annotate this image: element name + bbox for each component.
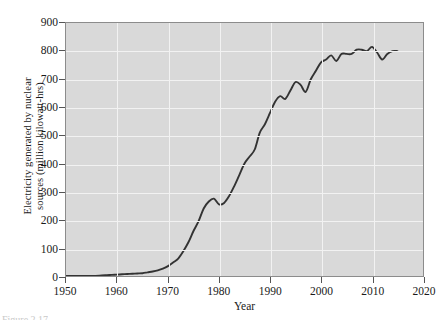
x-axis-tick-mark xyxy=(116,277,117,283)
y-axis-tick-mark xyxy=(59,220,65,221)
y-axis-tick-mark xyxy=(59,79,65,80)
y-axis-tick-mark xyxy=(59,50,65,51)
x-axis-tick-label: 2020 xyxy=(413,285,436,297)
y-axis-tick-mark xyxy=(59,135,65,136)
y-axis-tick-label: 400 xyxy=(26,158,58,170)
x-axis-tick-mark xyxy=(65,277,66,283)
gridline-vertical xyxy=(322,23,323,276)
x-axis-tick-mark xyxy=(424,277,425,283)
x-axis-tick-label: 1970 xyxy=(156,285,179,297)
gridline-horizontal xyxy=(66,108,423,109)
gridline-horizontal xyxy=(66,80,423,81)
figure-container: Electricity generated by nuclear sources… xyxy=(0,0,444,320)
data-series-line xyxy=(66,23,423,276)
y-axis-tick-label: 700 xyxy=(26,73,58,85)
y-axis-tick-label: 900 xyxy=(26,16,58,28)
x-axis-tick-mark xyxy=(373,277,374,283)
x-axis-tick-label: 1960 xyxy=(105,285,128,297)
gridline-vertical xyxy=(374,23,375,276)
x-axis-tick-mark xyxy=(219,277,220,283)
y-axis-tick-mark xyxy=(59,164,65,165)
y-axis-tick-label: 300 xyxy=(26,186,58,198)
y-axis-tick-mark xyxy=(59,192,65,193)
y-axis-tick-label: 200 xyxy=(26,214,58,226)
gridline-vertical xyxy=(169,23,170,276)
x-axis-tick-mark xyxy=(270,277,271,283)
y-axis-tick-mark xyxy=(59,22,65,23)
y-axis-tick-label: 800 xyxy=(26,44,58,56)
gridline-horizontal xyxy=(66,250,423,251)
y-axis-tick-label: 100 xyxy=(26,243,58,255)
gridline-horizontal xyxy=(66,221,423,222)
x-axis-tick-mark xyxy=(168,277,169,283)
y-axis-tick-label: 500 xyxy=(26,129,58,141)
gridline-vertical xyxy=(117,23,118,276)
y-axis-tick-label: 600 xyxy=(26,101,58,113)
gridline-vertical xyxy=(271,23,272,276)
x-axis-title: Year xyxy=(65,300,424,312)
x-axis-tick-label: 2000 xyxy=(310,285,333,297)
x-axis-tick-label: 1950 xyxy=(54,285,77,297)
nuclear-electricity-line xyxy=(66,47,398,276)
x-axis-tick-mark xyxy=(321,277,322,283)
y-axis-tick-labels: 0100200300400500600700800900 xyxy=(26,0,58,320)
x-axis-tick-label: 1990 xyxy=(259,285,282,297)
plot-area xyxy=(65,22,424,277)
x-axis-tick-label: 1980 xyxy=(207,285,230,297)
gridline-horizontal xyxy=(66,136,423,137)
y-axis-tick-mark xyxy=(59,249,65,250)
x-axis-tick-label: 2010 xyxy=(361,285,384,297)
gridline-horizontal xyxy=(66,193,423,194)
y-axis-tick-label: 0 xyxy=(26,271,58,283)
gridline-horizontal xyxy=(66,165,423,166)
gridline-vertical xyxy=(220,23,221,276)
y-axis-tick-mark xyxy=(59,107,65,108)
gridline-horizontal xyxy=(66,51,423,52)
figure-caption: Figure 2.17 xyxy=(2,314,48,320)
